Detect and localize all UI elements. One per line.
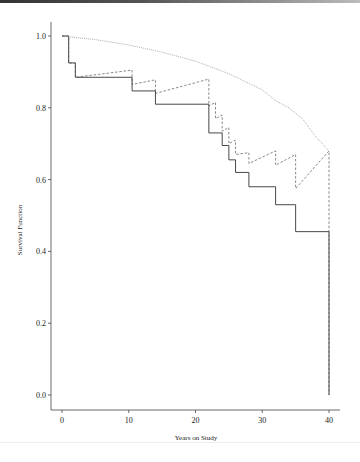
x-tick-label: 30 bbox=[258, 416, 266, 425]
y-tick-label: 0.0 bbox=[36, 391, 46, 400]
x-tick-label: 10 bbox=[125, 416, 133, 425]
y-tick-label: 0.2 bbox=[36, 319, 46, 328]
x-tick-label: 0 bbox=[60, 416, 64, 425]
x-tick-label: 40 bbox=[325, 416, 333, 425]
axes: 0.00.20.40.60.81.0010203040 bbox=[36, 22, 340, 425]
relative-survival-curve bbox=[62, 36, 329, 395]
y-tick-label: 0.4 bbox=[36, 247, 46, 256]
survival-chart: 0.00.20.40.60.81.0010203040 Years on Stu… bbox=[0, 0, 360, 462]
expected-survival-curve bbox=[62, 36, 329, 151]
series-group bbox=[62, 36, 329, 395]
y-tick-label: 1.0 bbox=[36, 32, 46, 41]
y-tick-label: 0.6 bbox=[36, 176, 46, 185]
divider bbox=[0, 442, 360, 443]
x-tick-label: 20 bbox=[192, 416, 200, 425]
y-axis-title: Survival Function bbox=[16, 204, 24, 255]
y-tick-label: 0.8 bbox=[36, 104, 46, 113]
km-step-curve bbox=[62, 36, 329, 395]
x-axis-title: Years on Study bbox=[175, 434, 218, 442]
